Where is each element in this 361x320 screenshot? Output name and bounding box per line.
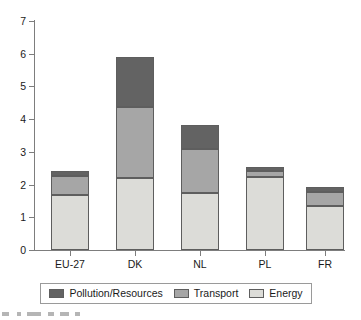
bar-segment-pl-transport (246, 171, 284, 177)
x-axis-label-eu-27: EU-27 (40, 259, 100, 270)
bar-segment-pl-pollution (246, 167, 284, 171)
x-axis-label-fr: FR (295, 259, 355, 270)
bar-segment-nl-transport (181, 149, 219, 193)
bar-segment-pl-energy (246, 177, 284, 250)
y-axis-label-3: 3 (6, 147, 26, 157)
y-axis-tick-0 (29, 250, 35, 251)
y-axis-label-5: 5 (6, 81, 26, 91)
y-axis-tick-1 (29, 217, 35, 218)
legend-swatch-transport-icon (174, 289, 189, 298)
x-axis-tick-eu-27 (70, 251, 71, 256)
bar-fr (306, 0, 344, 250)
x-axis-tick-fr (325, 251, 326, 256)
legend-item-energy: Energy (249, 288, 302, 299)
y-axis-label-1: 1 (6, 212, 26, 222)
legend-swatch-energy-icon (249, 289, 264, 298)
y-axis-tick-4 (29, 119, 35, 120)
scan-artefact (0, 312, 120, 317)
stacked-bar-chart: 76543210 EU-27DKNLPLFR Pollution/Resourc… (0, 0, 361, 320)
y-axis-label-0: 0 (6, 245, 26, 255)
bar-segment-fr-transport (306, 192, 344, 206)
x-axis-tick-nl (200, 251, 201, 256)
bar-segment-nl-energy (181, 193, 219, 250)
x-axis-tick-pl (265, 251, 266, 256)
bar-segment-dk-energy (116, 178, 154, 250)
bar-nl (181, 0, 219, 250)
y-axis-tick-5 (29, 86, 35, 87)
bar-segment-fr-pollution (306, 187, 344, 192)
y-axis-label-7: 7 (6, 16, 26, 26)
chart-legend: Pollution/Resources Transport Energy (40, 283, 312, 304)
legend-swatch-pollution-icon (49, 289, 64, 298)
x-axis-tick-dk (135, 251, 136, 256)
y-axis-label-4: 4 (6, 114, 26, 124)
bar-segment-nl-pollution (181, 125, 219, 149)
bar-dk (116, 0, 154, 250)
y-axis-tick-2 (29, 185, 35, 186)
legend-item-pollution: Pollution/Resources (49, 288, 162, 299)
y-axis-label-2: 2 (6, 180, 26, 190)
bar-pl (246, 0, 284, 250)
x-axis-label-dk: DK (105, 259, 165, 270)
y-axis-tick-7 (29, 21, 35, 22)
bar-segment-dk-pollution (116, 57, 154, 107)
legend-item-transport: Transport (174, 288, 239, 299)
y-axis-label-6: 6 (6, 49, 26, 59)
bar-segment-dk-transport (116, 107, 154, 178)
y-axis-tick-3 (29, 152, 35, 153)
bar-segment-eu-27-transport (51, 176, 89, 195)
bar-segment-eu-27-pollution (51, 171, 89, 177)
legend-label-transport: Transport (194, 288, 239, 299)
legend-label-energy: Energy (269, 288, 302, 299)
legend-label-pollution: Pollution/Resources (69, 288, 162, 299)
x-axis-label-nl: NL (170, 259, 230, 270)
y-axis-tick-6 (29, 54, 35, 55)
bar-segment-eu-27-energy (51, 195, 89, 250)
bar-segment-fr-energy (306, 206, 344, 250)
bar-eu-27 (51, 0, 89, 250)
x-axis-label-pl: PL (235, 259, 295, 270)
x-axis-line (34, 250, 345, 251)
